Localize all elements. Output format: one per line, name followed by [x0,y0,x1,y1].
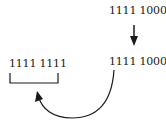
down-arrow-icon [130,25,138,46]
bracket-shape [10,73,58,83]
curved-arrow-icon [35,70,114,118]
diagram-graphics [0,0,166,127]
